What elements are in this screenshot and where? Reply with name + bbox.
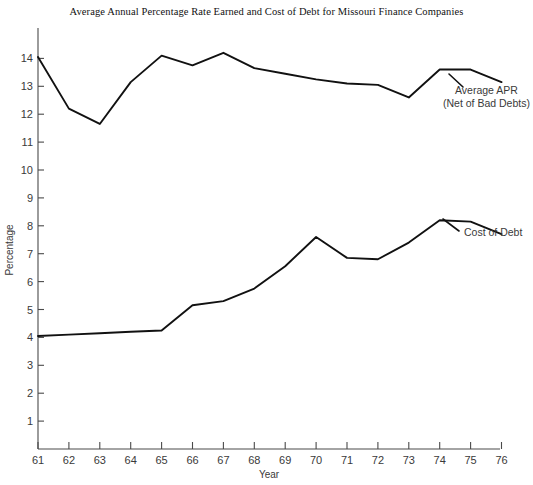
x-tick-label: 69: [279, 454, 291, 466]
x-tick-label: 76: [495, 454, 507, 466]
series-line-cost-of-debt: [38, 220, 502, 336]
x-tick-label: 73: [403, 454, 415, 466]
y-tick-label: 2: [27, 387, 33, 399]
x-tick-label: 70: [310, 454, 322, 466]
x-tick-label: 74: [434, 454, 446, 466]
x-tick-label: 62: [63, 454, 75, 466]
x-tick-label: 68: [248, 454, 260, 466]
chart-figure: Average Annual Percentage Rate Earned an…: [0, 0, 533, 485]
y-tick-label: 9: [27, 192, 33, 204]
y-tick-label: 1: [27, 415, 33, 427]
y-tick-label: 8: [27, 220, 33, 232]
x-axis-ticks: 61626364656667686970717273747576: [32, 442, 508, 466]
y-tick-label: 3: [27, 359, 33, 371]
chart-annotations: Average APR (Net of Bad Debts) Cost of D…: [443, 74, 530, 238]
chart-plot-area: 1234567891011121314 61626364656667686970…: [0, 0, 533, 485]
y-tick-label: 13: [21, 80, 33, 92]
x-tick-label: 75: [464, 454, 476, 466]
y-tick-label: 14: [21, 52, 33, 64]
y-axis-ticks: 1234567891011121314: [21, 52, 44, 427]
y-tick-label: 12: [21, 108, 33, 120]
x-tick-label: 72: [372, 454, 384, 466]
y-axis-title: Percentage: [4, 224, 15, 276]
x-tick-label: 67: [217, 454, 229, 466]
x-tick-label: 65: [155, 454, 167, 466]
y-tick-label: 4: [27, 331, 33, 343]
y-tick-label: 7: [27, 248, 33, 260]
y-tick-label: 10: [21, 164, 33, 176]
x-tick-label: 66: [186, 454, 198, 466]
y-tick-label: 6: [27, 276, 33, 288]
x-tick-label: 71: [341, 454, 353, 466]
x-tick-label: 64: [125, 454, 137, 466]
y-tick-label: 5: [27, 304, 33, 316]
y-tick-label: 11: [22, 136, 33, 148]
x-axis-title: Year: [259, 469, 280, 480]
chart-series-group: [38, 53, 502, 336]
series-label-cost-of-debt: Cost of Debt: [464, 226, 522, 238]
series-label-apr-line1: Average APR: [455, 84, 518, 96]
x-tick-label: 63: [94, 454, 106, 466]
series-label-apr-line2: (Net of Bad Debts): [443, 97, 530, 109]
x-tick-label: 61: [32, 454, 44, 466]
series-line-average-apr: [38, 53, 502, 124]
chart-axes: [38, 28, 500, 449]
